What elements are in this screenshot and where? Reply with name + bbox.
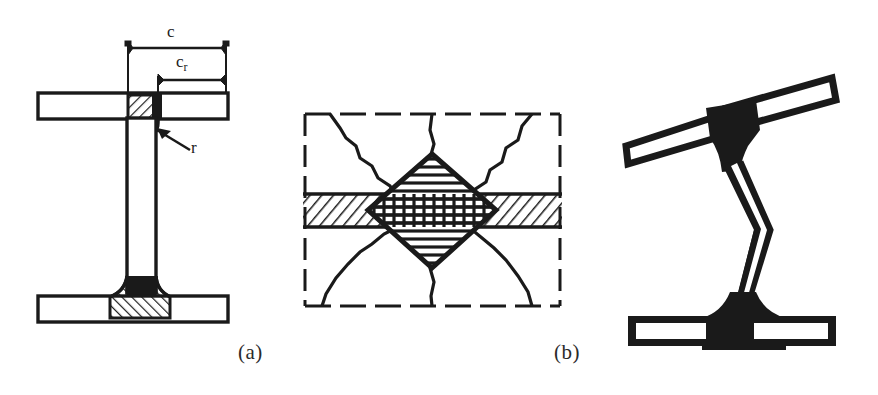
bottom-flange-c (628, 316, 836, 346)
panel-b-plastic-zone-diagram (300, 108, 565, 313)
dimension-label-c: c (167, 22, 175, 42)
dimension-label-cr: cr (176, 52, 188, 75)
web (127, 118, 156, 293)
panel-a-i-beam-cross-section (30, 8, 290, 338)
leader-line-r (157, 128, 190, 150)
central-diamond-crosshatched (360, 148, 505, 273)
caption-b: (b) (554, 340, 580, 365)
kinked-web (722, 160, 770, 306)
figure-root: c cr r (0, 0, 878, 395)
caption-a: (a) (238, 340, 263, 365)
top-junction-solid (706, 100, 760, 172)
panel-c-distorted-buckled-beam (618, 60, 868, 350)
fillet-radius-label-r: r (191, 138, 197, 158)
